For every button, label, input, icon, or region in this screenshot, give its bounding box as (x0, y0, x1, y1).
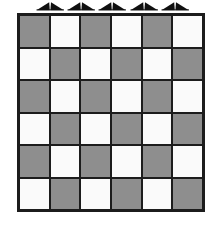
checkerboard-square[interactable] (51, 16, 80, 47)
checkerboard-square[interactable] (143, 114, 172, 145)
checkerboard-square[interactable] (112, 81, 141, 112)
checkerboard-square[interactable] (112, 16, 141, 47)
checkerboard-square[interactable] (143, 146, 172, 177)
checkerboard-square[interactable] (112, 49, 141, 80)
checkerboard-square[interactable] (112, 179, 141, 210)
checkerboard-square[interactable] (112, 114, 141, 145)
checkerboard-square[interactable] (20, 146, 49, 177)
checkerboard-square[interactable] (173, 49, 202, 80)
checkerboard-square[interactable] (143, 49, 172, 80)
checkerboard-square[interactable] (81, 49, 110, 80)
arrow-marker-icon (161, 0, 191, 12)
arrow-marker-icon (67, 0, 97, 12)
checkerboard-square[interactable] (81, 114, 110, 145)
arrow-marker-icon (98, 0, 128, 12)
checkerboard-square[interactable] (173, 16, 202, 47)
checkerboard-square[interactable] (20, 114, 49, 145)
checkerboard-square[interactable] (143, 81, 172, 112)
checkerboard-grid (19, 15, 203, 210)
checkerboard-square[interactable] (51, 49, 80, 80)
checkerboard-square[interactable] (81, 146, 110, 177)
checkerboard-square[interactable] (20, 179, 49, 210)
figure-root (0, 0, 220, 230)
checkerboard-square[interactable] (51, 146, 80, 177)
top-edge-arrow-markers (36, 0, 192, 12)
arrow-marker-icon (36, 0, 66, 12)
checkerboard-frame (17, 13, 205, 212)
checkerboard-square[interactable] (51, 114, 80, 145)
checkerboard-square[interactable] (173, 146, 202, 177)
arrow-marker-icon (130, 0, 160, 12)
checkerboard-square[interactable] (51, 179, 80, 210)
checkerboard-square[interactable] (112, 146, 141, 177)
checkerboard-square[interactable] (173, 179, 202, 210)
checkerboard-square[interactable] (143, 16, 172, 47)
checkerboard-square[interactable] (20, 16, 49, 47)
checkerboard-square[interactable] (173, 114, 202, 145)
checkerboard-square[interactable] (81, 81, 110, 112)
checkerboard-square[interactable] (51, 81, 80, 112)
checkerboard-square[interactable] (81, 16, 110, 47)
checkerboard-square[interactable] (20, 81, 49, 112)
checkerboard-square[interactable] (81, 179, 110, 210)
checkerboard-square[interactable] (143, 179, 172, 210)
checkerboard-square[interactable] (20, 49, 49, 80)
checkerboard-square[interactable] (173, 81, 202, 112)
